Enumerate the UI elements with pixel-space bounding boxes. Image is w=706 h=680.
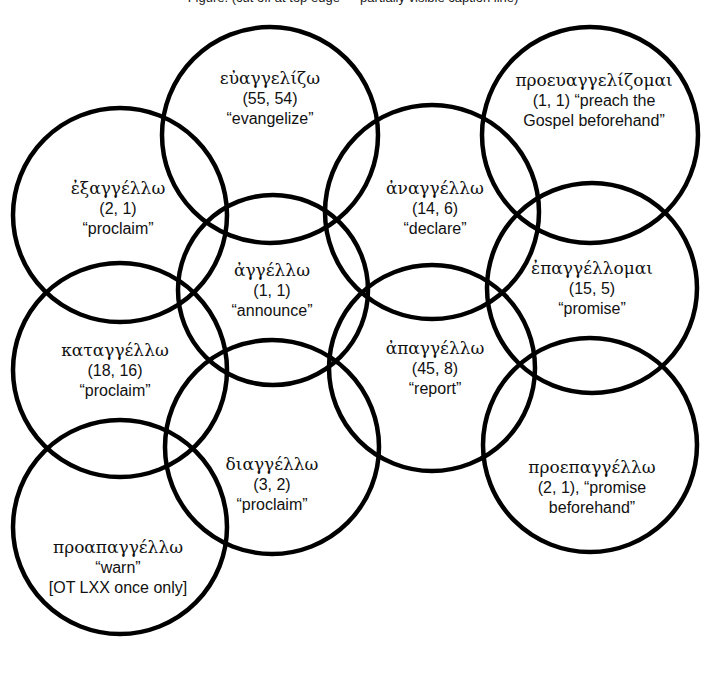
circle-group — [13, 27, 698, 634]
venn-circle-proepangello[interactable] — [483, 338, 697, 552]
venn-circle-apangello[interactable] — [329, 265, 535, 471]
venn-diagram-page: Figure. (cut off at top edge — partially… — [0, 0, 706, 680]
venn-circle-angello[interactable] — [178, 195, 368, 385]
venn-circle-anangello[interactable] — [325, 105, 539, 319]
venn-circle-epangellomai[interactable] — [487, 183, 697, 393]
venn-circles-svg — [0, 0, 706, 680]
venn-circle-proapangello[interactable] — [13, 420, 227, 634]
